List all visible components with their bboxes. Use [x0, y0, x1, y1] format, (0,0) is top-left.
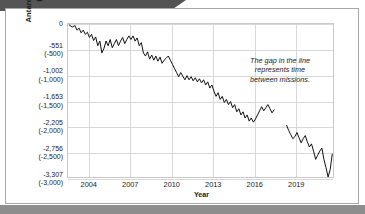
annotation-line3: between missions.: [250, 75, 310, 84]
annotation-line1: The gap in the line: [250, 56, 310, 65]
y-axis-title-line2: (Metric Gigatonne): [34, 0, 43, 1]
x-axis-title: Year: [68, 190, 335, 199]
series-line-grace-fo: [287, 125, 333, 177]
y-tick-metric: (-1,500): [5, 102, 63, 110]
y-axis-tick: 0: [5, 20, 63, 28]
y-axis-tick: -2,205(-2,000): [5, 119, 63, 135]
y-axis-tick: -551(-500): [5, 42, 63, 58]
y-tick-metric: (-1,000): [5, 76, 63, 84]
plot-area: Antarctica Mass, U.S. Gigaton (Metric Gi…: [67, 23, 334, 178]
x-axis-tick: 2016: [247, 180, 263, 189]
chart-annotation: The gap in the line represents time betw…: [228, 56, 332, 84]
y-tick-us: -2,205: [5, 119, 63, 127]
y-tick-us: -1,002: [5, 67, 63, 75]
bottom-bar-decoration: [0, 205, 365, 214]
x-axis-tick: 2004: [81, 180, 97, 189]
y-tick-metric: (-2,500): [5, 153, 63, 161]
y-tick-us: -1,653: [5, 93, 63, 101]
data-series-lines: [68, 24, 335, 179]
chart-screenshot: Antarctica Mass, U.S. Gigaton (Metric Gi…: [0, 0, 365, 214]
y-tick-us: 0: [5, 20, 63, 28]
y-tick-us: -3,307: [5, 171, 63, 179]
y-axis-tick: -1,002(-1,000): [5, 67, 63, 83]
x-axis-tick: 2010: [164, 180, 180, 189]
x-axis-tick: 2019: [288, 180, 304, 189]
y-axis-tick: -2,756(-2,500): [5, 145, 63, 161]
y-tick-us: -551: [5, 42, 63, 50]
y-tick-us: -2,756: [5, 145, 63, 153]
y-tick-metric: (-2,000): [5, 127, 63, 135]
x-axis-tick: 2013: [205, 180, 221, 189]
y-axis-tick: -3,307(-3,000): [5, 171, 63, 187]
annotation-line2: represents time: [255, 65, 305, 74]
x-axis-tick: 2007: [122, 180, 138, 189]
y-axis-tick: -1,653(-1,500): [5, 93, 63, 109]
y-tick-metric: (-500): [5, 50, 63, 58]
y-tick-metric: (-3,000): [5, 179, 63, 187]
